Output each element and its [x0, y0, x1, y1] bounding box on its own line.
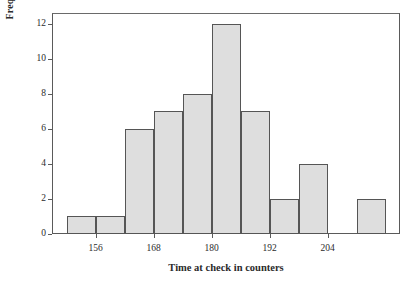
x-tick-label: 156 [76, 243, 116, 253]
histogram-bar [299, 164, 328, 234]
histogram-bar [212, 24, 241, 234]
histogram-bar [357, 199, 386, 234]
x-tick-label: 168 [134, 243, 174, 253]
histogram-bar [67, 216, 96, 234]
histogram-bar [154, 111, 183, 234]
histogram-bar [183, 94, 212, 234]
y-tick-label: 10 [26, 54, 46, 63]
y-tick-label: 12 [26, 19, 46, 28]
x-tick-label: 204 [308, 243, 348, 253]
y-tick-label: 8 [26, 89, 46, 98]
y-tick-mark [48, 234, 52, 235]
x-tick-mark [212, 234, 213, 238]
y-tick-label: 4 [26, 159, 46, 168]
histogram-bar [241, 111, 270, 234]
x-tick-mark [328, 234, 329, 238]
x-tick-label: 192 [250, 243, 290, 253]
x-tick-mark [270, 234, 271, 238]
histogram-bar [96, 216, 125, 234]
y-tick-label: 2 [26, 194, 46, 203]
x-tick-mark [96, 234, 97, 238]
y-tick-label: 0 [26, 229, 46, 238]
x-tick-mark [154, 234, 155, 238]
y-tick-label: 6 [26, 124, 46, 133]
x-axis-title: Time at check in counters [52, 262, 400, 273]
histogram-bar [270, 199, 299, 234]
histogram-figure: Frequency 024681012 156168180192204 Time… [0, 0, 414, 282]
y-axis-title: Frequency [4, 0, 18, 56]
bars-container [52, 13, 400, 234]
histogram-bar [125, 129, 154, 234]
x-tick-label: 180 [192, 243, 232, 253]
